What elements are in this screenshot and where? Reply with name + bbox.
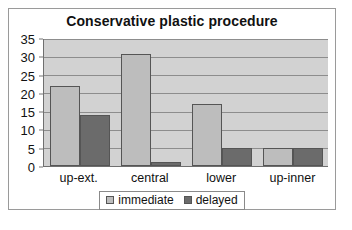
y-tick-label-30: 30 bbox=[21, 51, 35, 64]
y-tick-label-0: 0 bbox=[28, 161, 35, 174]
bars-layer bbox=[44, 39, 328, 166]
x-tick-label-up-inner: up-inner bbox=[257, 171, 328, 185]
chart-title: Conservative plastic procedure bbox=[9, 13, 335, 29]
bar-immediate-up-ext-[interactable] bbox=[50, 86, 80, 166]
legend-swatch-immediate-icon bbox=[106, 196, 114, 204]
chart-frame: Conservative plastic procedure 051015202… bbox=[8, 8, 336, 210]
y-tick-label-20: 20 bbox=[21, 87, 35, 100]
legend-item-immediate[interactable]: immediate bbox=[106, 193, 173, 207]
plot-wrapper: 05101520253035 bbox=[43, 39, 328, 167]
bar-group-lower bbox=[186, 39, 257, 166]
y-tick-label-5: 5 bbox=[28, 142, 35, 155]
bar-group-up-inner bbox=[257, 39, 328, 166]
x-tick-label-lower: lower bbox=[186, 171, 257, 185]
y-tick-label-35: 35 bbox=[21, 33, 35, 46]
y-tick-label-10: 10 bbox=[21, 124, 35, 137]
x-axis: up-ext.centrallowerup-inner bbox=[43, 171, 328, 185]
y-tick-label-15: 15 bbox=[21, 106, 35, 119]
y-tick-label-25: 25 bbox=[21, 69, 35, 82]
bar-immediate-lower[interactable] bbox=[192, 104, 222, 166]
bar-immediate-up-inner[interactable] bbox=[263, 148, 293, 166]
bar-delayed-up-ext-[interactable] bbox=[80, 115, 110, 166]
bar-immediate-central[interactable] bbox=[121, 54, 151, 166]
bar-group-central bbox=[115, 39, 186, 166]
legend-swatch-delayed-icon bbox=[184, 196, 192, 204]
legend-item-delayed[interactable]: delayed bbox=[184, 193, 238, 207]
bar-delayed-central[interactable] bbox=[151, 162, 181, 166]
legend-label-immediate: immediate bbox=[118, 193, 173, 207]
legend: immediatedelayed bbox=[9, 191, 335, 210]
legend-label-delayed: delayed bbox=[196, 193, 238, 207]
bar-delayed-up-inner[interactable] bbox=[293, 148, 323, 166]
x-tick-label-central: central bbox=[114, 171, 185, 185]
bar-delayed-lower[interactable] bbox=[222, 148, 252, 166]
y-axis: 05101520253035 bbox=[11, 39, 39, 167]
plot-area bbox=[43, 39, 328, 167]
bar-group-up-ext- bbox=[44, 39, 115, 166]
legend-box: immediatedelayed bbox=[99, 191, 244, 210]
x-tick-label-up-ext-: up-ext. bbox=[43, 171, 114, 185]
